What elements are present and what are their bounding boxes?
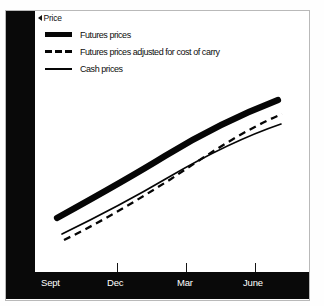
- series-futures-adjusted: [64, 114, 282, 240]
- series-futures-prices: [57, 100, 278, 218]
- legend: Futures prices Futures prices adjusted f…: [45, 28, 295, 79]
- maturity-annotation: Maturity: [300, 260, 309, 272]
- legend-marker-thin-line-icon: [45, 62, 73, 75]
- chart-figure: Maturity Price Futures prices Futures pr…: [0, 0, 324, 306]
- price-axis-band: [6, 11, 35, 299]
- legend-item-futures-adjusted: Futures prices adjusted for cost of carr…: [45, 45, 295, 62]
- legend-marker-dashed-line-icon: [45, 45, 73, 58]
- legend-label-futures-prices: Futures prices: [80, 29, 131, 41]
- legend-item-futures-prices: Futures prices: [45, 28, 295, 45]
- price-axis-arrow-icon: [38, 15, 42, 21]
- x-axis-label-mar: Mar: [177, 277, 193, 288]
- legend-item-cash-prices: Cash prices: [45, 62, 295, 79]
- x-tick-june: [255, 263, 256, 272]
- x-axis-label-dec: Dec: [107, 277, 123, 288]
- x-tick-mar: [186, 263, 187, 272]
- legend-marker-thick-bar-icon: [45, 28, 73, 41]
- price-axis-label: Price: [38, 13, 62, 23]
- price-axis-label-text: Price: [44, 13, 62, 23]
- maturity-label: Maturity: [300, 260, 309, 269]
- legend-label-futures-adjusted: Futures prices adjusted for cost of carr…: [80, 46, 220, 58]
- legend-label-cash-prices: Cash prices: [80, 63, 123, 75]
- x-axis-label-june: June: [243, 277, 263, 288]
- x-axis-label-sept: Sept: [41, 277, 60, 288]
- x-tick-dec: [117, 263, 118, 272]
